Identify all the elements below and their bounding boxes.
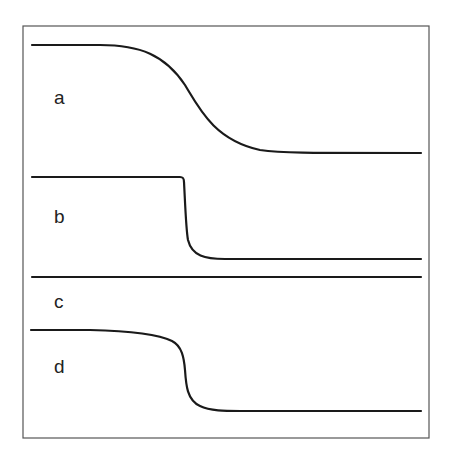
figure-frame bbox=[23, 26, 429, 438]
trace-b-curve bbox=[32, 177, 421, 259]
trace-a-label: a bbox=[54, 87, 65, 108]
trace-c-label: c bbox=[54, 291, 64, 312]
trace-d-label: d bbox=[54, 356, 65, 377]
trace-d-curve bbox=[31, 330, 421, 411]
diagram-figure: a b c d bbox=[0, 0, 450, 462]
trace-b-label: b bbox=[54, 206, 65, 227]
trace-a-curve bbox=[32, 45, 421, 153]
